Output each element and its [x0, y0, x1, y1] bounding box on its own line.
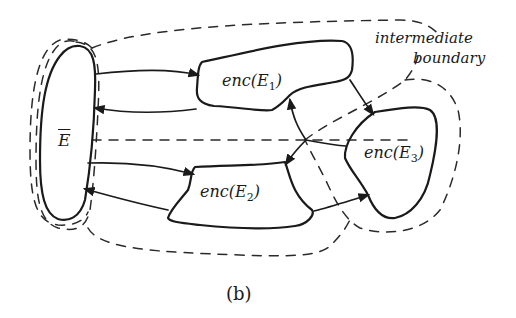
label-var: E	[257, 71, 269, 90]
label-var: E	[235, 182, 247, 201]
edge-ebar-to-e2	[88, 163, 193, 174]
edge-e2-to-ebar	[85, 189, 168, 210]
edge-e3-to-e2	[286, 140, 306, 164]
edge-ebar-to-e1	[96, 70, 198, 75]
label-suffix: )	[418, 143, 424, 162]
label-var: E	[399, 143, 411, 162]
label-suffix: )	[254, 182, 260, 201]
edge-e1-to-e3	[350, 80, 373, 114]
annotation-line2: boundary	[413, 49, 485, 68]
edge-e1-to-ebar	[95, 108, 196, 112]
label-suffix: )	[276, 71, 282, 90]
diagram-canvas: E enc(E1) enc(E2) enc(E3) intermediate b…	[0, 0, 516, 318]
annotation-line1: intermediate	[375, 29, 473, 48]
label-prefix: enc(	[200, 182, 235, 201]
outer-boundary-bottom	[88, 215, 352, 256]
figure-caption: (b)	[226, 283, 252, 304]
node-e-bar-label: E	[58, 130, 70, 150]
label-sub: 1	[269, 80, 276, 93]
node-enc-e1-label: enc(E1)	[222, 71, 282, 93]
node-enc-e2-label: enc(E2)	[200, 182, 260, 204]
label-prefix: enc(	[364, 143, 399, 162]
label-sub: 3	[411, 152, 418, 165]
edge-e2-to-e3	[314, 195, 368, 211]
label-sub: 2	[247, 191, 254, 204]
label-prefix: enc(	[222, 71, 257, 90]
edge-e3-to-e1	[290, 100, 346, 146]
node-enc-e3-label: enc(E3)	[364, 143, 424, 165]
